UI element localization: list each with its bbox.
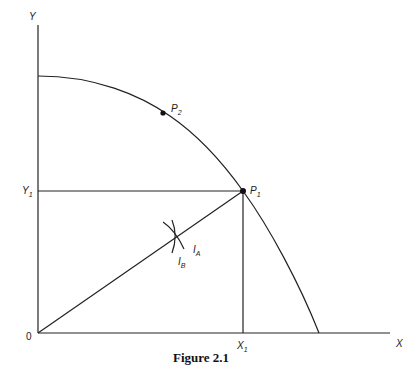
ia-label: IA — [193, 244, 201, 257]
y1-label: Y1 — [22, 185, 33, 198]
ib-label: IB — [178, 256, 186, 269]
y-axis-label: Y — [29, 11, 37, 22]
p1-label: P1 — [250, 185, 261, 198]
ray-origin-to-p1 — [38, 191, 243, 333]
x1-label: X1 — [236, 340, 248, 353]
figure-caption: Figure 2.1 — [173, 350, 229, 365]
p2-label: P2 — [171, 103, 182, 116]
diagram-canvas: Y X 0 Y1 X1 P1 P2 IA IB Figure 2.1 — [0, 0, 415, 371]
indifference-curve-ib — [172, 220, 175, 253]
point-p1-dot — [240, 188, 246, 194]
point-p2-dot — [160, 110, 165, 115]
origin-label: 0 — [26, 331, 32, 342]
x-axis-label: X — [395, 338, 403, 349]
